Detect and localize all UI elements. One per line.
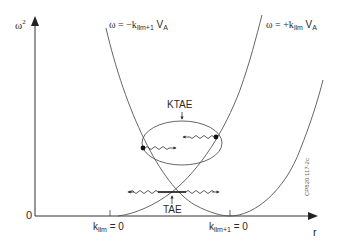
curve-plus-k-llm <box>118 15 262 216</box>
y-axis-label: ω2 <box>15 19 26 31</box>
ktae-wave-left-icon <box>190 136 214 139</box>
tae-label: TAE <box>163 205 182 215</box>
curve-minus-k-llm-plus-1 <box>106 28 323 216</box>
tae-wave-left-icon <box>130 191 158 194</box>
ktae-right-dot <box>214 135 219 140</box>
ktae-ellipse <box>142 121 222 165</box>
diagram-root: ω2 0 r ω = −kllm+1 VA ω = +kllm VA kllm … <box>0 0 342 244</box>
tick-label-k-llm-plus-1: kllm+1 = 0 <box>209 222 248 233</box>
y-axis <box>31 16 39 216</box>
ktae-label: KTAE <box>167 100 192 110</box>
origin-label: 0 <box>26 210 32 221</box>
curve-label-minus-k-llm-plus-1: ω = −kllm+1 VA <box>109 20 168 31</box>
x-axis-arrow-icon <box>308 212 318 220</box>
ktae-wave-right-icon <box>145 147 169 150</box>
tick-label-k-llm: kllm = 0 <box>93 222 124 233</box>
x-axis-label: r <box>313 227 317 238</box>
curve-label-plus-k-llm: ω = +kllm VA <box>266 20 317 31</box>
tae-wave-right-icon <box>186 191 214 194</box>
figure-id: CP820.117-2c <box>304 158 310 196</box>
ktae-left-dot <box>141 146 146 151</box>
y-axis-arrow-icon <box>31 16 39 26</box>
